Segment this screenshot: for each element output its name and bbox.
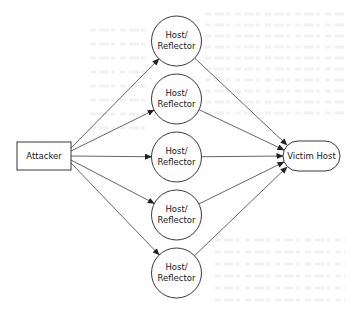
edge-attacker-to-reflector3 [71, 156, 152, 157]
reflector-label-line2: Reflector [157, 99, 196, 109]
reflector-label-line2: Reflector [157, 215, 196, 225]
reflector-label-line2: Reflector [157, 157, 196, 167]
reflector-label-line2: Reflector [157, 273, 196, 283]
reflector-label-line2: Reflector [157, 41, 196, 51]
reflector-label-line1: Host/ [165, 262, 187, 272]
reflector-label-line1: Host/ [165, 146, 187, 156]
reflector-node: Host/ Reflector [152, 132, 202, 182]
reflector-node: Host/ Reflector [152, 248, 202, 298]
ddos-reflection-diagram: Attacker Host/ Reflector Host/ Reflector… [0, 0, 352, 311]
victim-label: Victim Host [287, 151, 336, 161]
reflector-node: Host/ Reflector [152, 190, 202, 240]
edge-attacker-to-reflector5 [71, 163, 159, 255]
edge-reflector5-to-victim [195, 167, 287, 256]
reflector-label-line1: Host/ [165, 88, 187, 98]
attacker-node: Attacker [17, 142, 71, 170]
edge-attacker-to-reflector2 [71, 110, 154, 151]
edge-reflector4-to-victim [199, 162, 284, 204]
reflector-node: Host/ Reflector [152, 16, 202, 66]
edge-reflector3-to-victim [201, 156, 283, 157]
reflector-node: Host/ Reflector [152, 74, 202, 124]
reflector-label-line1: Host/ [165, 30, 187, 40]
attacker-label: Attacker [26, 151, 62, 161]
reflector-label-line1: Host/ [165, 204, 187, 214]
nodes: Attacker Host/ Reflector Host/ Reflector… [17, 16, 340, 298]
edge-attacker-to-reflector4 [71, 160, 154, 203]
victim-node: Victim Host [283, 141, 340, 171]
